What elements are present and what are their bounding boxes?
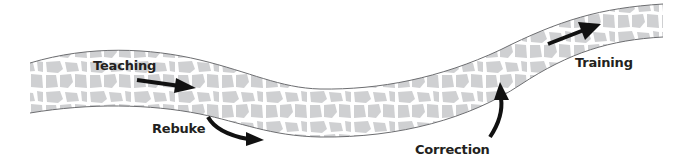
stone-path-diagram: Teaching Rebuke Correction Training	[0, 0, 689, 164]
label-rebuke: Rebuke	[152, 121, 205, 136]
label-teaching: Teaching	[93, 58, 156, 73]
label-training: Training	[575, 55, 633, 70]
label-correction: Correction	[415, 142, 490, 157]
